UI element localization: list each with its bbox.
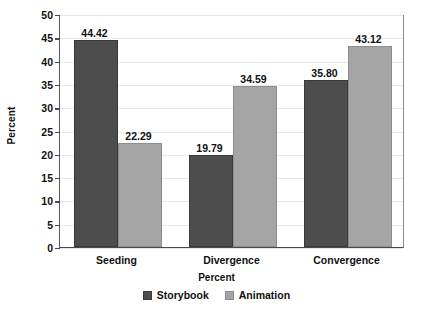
x-axis-tick-label: Seeding: [96, 254, 137, 266]
bar-convergence-animation[interactable]: [348, 46, 392, 247]
x-axis-title-text: Percent: [198, 272, 235, 283]
y-axis-title-text: Percent: [6, 106, 17, 144]
y-axis-tick-label: 30: [41, 102, 53, 114]
bar-value-label: 34.59: [240, 73, 266, 85]
bar-divergence-animation[interactable]: [233, 86, 277, 247]
bar-seeding-animation[interactable]: [118, 143, 162, 247]
bar-value-label: 44.42: [81, 27, 107, 39]
y-axis-tick-mark: [55, 201, 60, 202]
y-axis-tick-label: 40: [41, 56, 53, 68]
y-axis-tick-label: 50: [41, 9, 53, 21]
x-axis-tick-label: Convergence: [313, 254, 380, 266]
gridline: [60, 15, 403, 16]
y-axis-tick-label: 20: [41, 149, 53, 161]
bar-chart: Percent 05101520253035404550 44.4222.291…: [0, 0, 433, 317]
y-axis-tick-mark: [55, 248, 60, 249]
y-axis-tick-mark: [55, 178, 60, 179]
bar-value-label: 22.29: [125, 130, 151, 142]
y-axis-tick-label: 5: [47, 219, 53, 231]
y-axis-title: Percent: [2, 0, 20, 250]
y-axis-tick-mark: [55, 225, 60, 226]
y-axis-tick-label: 35: [41, 79, 53, 91]
bar-seeding-storybook[interactable]: [74, 40, 118, 247]
y-axis-tick-label: 25: [41, 126, 53, 138]
chart-legend: Storybook Animation: [0, 289, 433, 301]
x-axis-title: Percent: [0, 272, 433, 283]
bar-value-label: 43.12: [355, 33, 381, 45]
legend-label-animation: Animation: [239, 289, 290, 301]
legend-swatch-icon-animation: [225, 291, 234, 300]
bar-value-label: 35.80: [311, 67, 337, 79]
legend-item-storybook[interactable]: Storybook: [143, 289, 209, 301]
y-axis-tick-mark: [55, 62, 60, 63]
plot-area: [59, 15, 404, 248]
bar-value-label: 19.79: [196, 142, 222, 154]
y-axis-tick-mark: [55, 15, 60, 16]
y-axis-tick-mark: [55, 108, 60, 109]
y-axis-tick-label: 15: [41, 172, 53, 184]
y-axis-tick-mark: [55, 132, 60, 133]
x-axis-tick-label: Divergence: [203, 254, 260, 266]
legend-label-storybook: Storybook: [157, 289, 209, 301]
bar-divergence-storybook[interactable]: [189, 155, 233, 247]
y-axis-tick-label: 10: [41, 195, 53, 207]
bar-convergence-storybook[interactable]: [304, 80, 348, 247]
y-axis-tick-mark: [55, 155, 60, 156]
legend-swatch-icon-storybook: [143, 291, 152, 300]
legend-item-animation[interactable]: Animation: [225, 289, 290, 301]
gridline: [60, 248, 403, 249]
y-axis-tick-mark: [55, 85, 60, 86]
y-axis-tick-label: 0: [47, 242, 53, 254]
y-axis-tick-mark: [55, 38, 60, 39]
y-axis-tick-label: 45: [41, 32, 53, 44]
